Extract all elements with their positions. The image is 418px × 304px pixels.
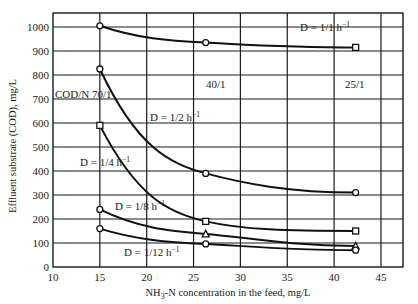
x-tick-label: 20 (141, 271, 153, 283)
circle-marker (97, 206, 103, 212)
annotation-cod-n-70: COD/N 70/1 (55, 88, 112, 100)
x-axis-title: NH3-N concentration in the feed, mg/L (146, 287, 311, 301)
x-tick-label: 40 (329, 271, 341, 283)
data-series (100, 26, 356, 250)
circle-marker (203, 170, 209, 176)
y-tick-label: 100 (33, 237, 50, 249)
y-tick-label: 200 (33, 213, 50, 225)
square-marker (203, 218, 209, 224)
circle-marker (97, 23, 103, 29)
series-line (100, 209, 356, 245)
gridlines (53, 13, 403, 267)
label-d-1-2: D = 1/2 h−1 (150, 110, 200, 123)
series-line (100, 69, 356, 193)
y-tick-label: 800 (33, 69, 50, 81)
circle-marker (97, 226, 103, 232)
annotation-cod-n-40: 40/1 (206, 78, 226, 90)
label-d-1-1: D = 1/1 h−1 (300, 20, 350, 33)
y-tick-label: 500 (33, 141, 50, 153)
square-marker (353, 228, 359, 234)
y-axis-ticks: 01002003004005006007008009001000 (27, 21, 50, 273)
square-marker (353, 44, 359, 50)
x-tick-label: 25 (188, 271, 200, 283)
chart-canvas: 01002003004005006007008009001000 1015202… (0, 0, 418, 304)
triangle-marker (202, 230, 209, 237)
label-d-1-4: D = 1/4 h−1 (80, 155, 130, 168)
label-d-1-8: D = 1/8 h−1 (115, 199, 165, 212)
y-tick-label: 900 (33, 45, 50, 57)
circle-marker (203, 40, 209, 46)
y-tick-label: 400 (33, 165, 50, 177)
y-tick-label: 1000 (27, 21, 50, 33)
y-tick-label: 700 (33, 93, 50, 105)
circle-marker (97, 66, 103, 72)
x-tick-label: 15 (94, 271, 106, 283)
circle-marker (353, 247, 359, 253)
x-tick-label: 45 (375, 271, 387, 283)
x-tick-label: 10 (48, 271, 60, 283)
circle-marker (203, 241, 209, 247)
label-d-1-12: D = 1/12 h−1 (124, 245, 180, 258)
square-marker (97, 122, 103, 128)
x-tick-label: 35 (282, 271, 294, 283)
y-axis-title: Effluent substrate (COD), mg/L (7, 79, 19, 213)
y-tick-label: 300 (33, 189, 50, 201)
x-axis-ticks: 1015202530354045 (48, 271, 387, 283)
x-tick-label: 30 (235, 271, 247, 283)
y-tick-label: 600 (33, 117, 50, 129)
annotation-cod-n-25: 25/1 (345, 78, 365, 90)
circle-marker (353, 190, 359, 196)
